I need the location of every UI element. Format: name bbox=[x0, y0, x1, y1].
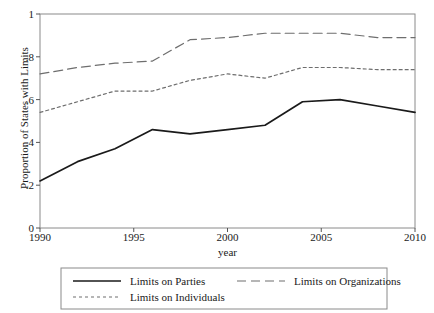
legend-label: Limits on Parties bbox=[130, 275, 205, 287]
legend-label: Limits on Organizations bbox=[294, 275, 401, 287]
plot-area: Limits on PartiesLimits on Organizations… bbox=[0, 0, 434, 313]
series-line-limits-on-parties bbox=[40, 100, 415, 181]
chart-figure: Proportion of States with Limits 0.2.4.6… bbox=[0, 0, 434, 313]
series-line-limits-on-individuals bbox=[40, 68, 415, 113]
plot-frame bbox=[40, 14, 415, 228]
series-line-limits-on-organizations bbox=[40, 33, 415, 74]
legend-label: Limits on Individuals bbox=[130, 291, 225, 303]
